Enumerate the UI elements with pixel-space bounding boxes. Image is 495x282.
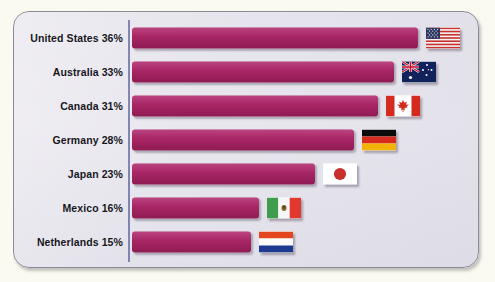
bar-row: Australia 33% xyxy=(14,58,479,86)
bar-chart: United States 36%Australia 33%Canada 31%… xyxy=(0,0,495,282)
bar-row: Netherlands 15% xyxy=(14,228,479,256)
bar-row-label: Japan 23% xyxy=(14,168,123,180)
bar xyxy=(132,96,378,117)
bar-row-label: Germany 28% xyxy=(14,134,123,146)
bar-row: United States 36% xyxy=(14,24,479,52)
flag-united-states-icon xyxy=(426,28,460,49)
bar-row-label: Canada 31% xyxy=(14,100,123,112)
bar xyxy=(132,130,354,151)
flag-canada-icon xyxy=(386,96,420,117)
bar-row: Mexico 16% xyxy=(14,194,479,222)
flag-germany-icon xyxy=(362,130,396,151)
bar-rows: United States 36%Australia 33%Canada 31%… xyxy=(14,12,479,268)
bar-row-label: United States 36% xyxy=(14,32,123,44)
bar-row-label: Mexico 16% xyxy=(14,202,123,214)
bar xyxy=(132,62,394,83)
bar xyxy=(132,28,418,49)
bar-row: Canada 31% xyxy=(14,92,479,120)
bar xyxy=(132,164,315,185)
flag-mexico-icon xyxy=(267,198,301,219)
bar-row-label: Australia 33% xyxy=(14,66,123,78)
flag-japan-icon xyxy=(323,164,357,185)
flag-australia-icon xyxy=(402,62,436,83)
bar-row-label: Netherlands 15% xyxy=(14,236,123,248)
bar xyxy=(132,198,259,219)
bar-row: Germany 28% xyxy=(14,126,479,154)
bar-row: Japan 23% xyxy=(14,160,479,188)
bar xyxy=(132,232,251,253)
flag-netherlands-icon xyxy=(259,232,293,253)
chart-panel: United States 36%Australia 33%Canada 31%… xyxy=(13,11,479,268)
